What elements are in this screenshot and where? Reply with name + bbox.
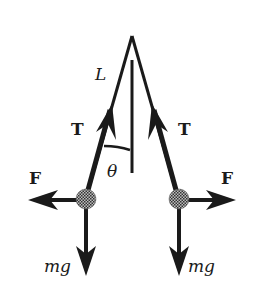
tension-arrow-right bbox=[148, 104, 176, 190]
weight-arrow-left bbox=[76, 204, 96, 276]
force-arrow-right bbox=[182, 190, 236, 210]
force-label-left: F bbox=[29, 168, 41, 188]
angle-label: θ bbox=[107, 161, 117, 181]
length-label: L bbox=[94, 64, 106, 84]
ball-right bbox=[169, 189, 189, 209]
tension-label-right: T bbox=[178, 119, 191, 139]
weight-arrow-right bbox=[169, 204, 189, 276]
angle-arc bbox=[104, 146, 130, 150]
pendulum-force-diagram: L T T θ F F mg mg bbox=[0, 0, 254, 300]
weight-label-left: mg bbox=[44, 256, 71, 276]
ball-left bbox=[76, 189, 96, 209]
force-arrow-left bbox=[28, 190, 82, 210]
weight-label-right: mg bbox=[188, 256, 215, 276]
tension-label-left: T bbox=[71, 119, 84, 139]
force-label-right: F bbox=[221, 168, 233, 188]
